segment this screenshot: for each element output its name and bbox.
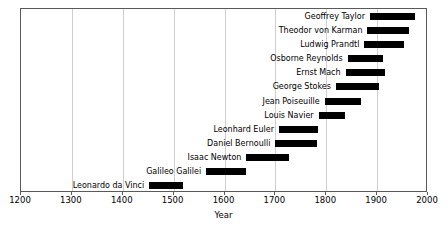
timeline-row: Leonhard Euler xyxy=(21,123,426,136)
timeline-bar xyxy=(246,154,289,161)
x-axis-tick-label: 2000 xyxy=(416,195,438,205)
x-axis-tick-label: 1400 xyxy=(111,195,133,205)
timeline-row-label: Leonhard Euler xyxy=(213,123,277,136)
timeline-bar xyxy=(275,140,317,147)
timeline-row-label: Daniel Bernoulli xyxy=(207,137,273,150)
timeline-chart-figure: Geoffrey TaylorTheodor von KarmanLudwig … xyxy=(0,0,448,231)
timeline-bar xyxy=(370,13,415,20)
x-axis-tick-label: 1800 xyxy=(314,195,336,205)
timeline-row-label: George Stokes xyxy=(273,80,334,93)
timeline-row: Isaac Newton xyxy=(21,151,426,164)
x-axis-label: Year xyxy=(20,210,427,220)
timeline-bar xyxy=(364,41,404,48)
timeline-bar xyxy=(149,182,183,189)
timeline-row: Leonardo da Vinci xyxy=(21,179,426,192)
timeline-row: Louis Navier xyxy=(21,109,426,122)
x-axis-tick-label: 1200 xyxy=(9,195,31,205)
timeline-row-label: Leonardo da Vinci xyxy=(73,179,148,192)
x-axis-tick-label: 1900 xyxy=(365,195,387,205)
timeline-bar xyxy=(336,83,379,90)
x-axis-tick-label: 1700 xyxy=(264,195,286,205)
timeline-bar xyxy=(346,69,386,76)
timeline-bar xyxy=(206,168,246,175)
timeline-row: Galileo Galilei xyxy=(21,165,426,178)
timeline-row-label: Ludwig Prandtl xyxy=(300,38,362,51)
timeline-row: Jean Poiseuille xyxy=(21,95,426,108)
x-axis-tick-label: 1600 xyxy=(213,195,235,205)
timeline-row-label: Jean Poiseuille xyxy=(263,95,323,108)
timeline-row-label: Galileo Galilei xyxy=(146,165,204,178)
timeline-row-label: Isaac Newton xyxy=(188,151,245,164)
x-axis: 120013001400150016001700180019002000 xyxy=(20,192,427,206)
timeline-row: Geoffrey Taylor xyxy=(21,10,426,23)
timeline-bar xyxy=(325,98,362,105)
timeline-row: Daniel Bernoulli xyxy=(21,137,426,150)
timeline-row: Ludwig Prandtl xyxy=(21,38,426,51)
x-axis-tick-label: 1500 xyxy=(162,195,184,205)
timeline-row: George Stokes xyxy=(21,80,426,93)
timeline-bar xyxy=(319,112,345,119)
timeline-row-label: Geoffrey Taylor xyxy=(305,10,368,23)
timeline-bar xyxy=(367,27,409,34)
timeline-rows: Geoffrey TaylorTheodor von KarmanLudwig … xyxy=(21,9,426,191)
x-axis-tick-label: 1300 xyxy=(60,195,82,205)
timeline-row: Osborne Reynolds xyxy=(21,52,426,65)
timeline-row: Theodor von Karman xyxy=(21,24,426,37)
plot-area: Geoffrey TaylorTheodor von KarmanLudwig … xyxy=(20,8,427,192)
timeline-row: Ernst Mach xyxy=(21,66,426,79)
timeline-bar xyxy=(348,55,384,62)
timeline-bar xyxy=(279,126,318,133)
timeline-row-label: Osborne Reynolds xyxy=(270,52,345,65)
timeline-row-label: Theodor von Karman xyxy=(279,24,366,37)
timeline-row-label: Louis Navier xyxy=(264,109,316,122)
timeline-row-label: Ernst Mach xyxy=(296,66,343,79)
